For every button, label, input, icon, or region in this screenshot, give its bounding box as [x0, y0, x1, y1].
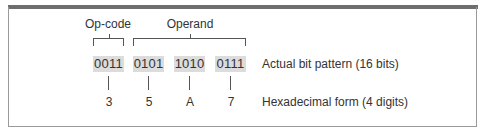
hex-form-label: Hexadecimal form (4 digits) — [262, 95, 408, 109]
hex-digit-3: A — [186, 95, 194, 109]
operand-bracket — [133, 38, 246, 46]
connector-4 — [230, 76, 231, 90]
opcode-bracket-tick — [109, 34, 110, 39]
hex-digit-2: 5 — [146, 95, 153, 109]
bit-group-1: 0011 — [93, 56, 124, 72]
connector-3 — [189, 76, 190, 90]
connector-2 — [148, 76, 149, 90]
bit-group-3: 1010 — [174, 56, 205, 72]
operand-label: Operand — [167, 17, 214, 31]
connector-1 — [108, 76, 109, 90]
bit-pattern-label: Actual bit pattern (16 bits) — [262, 57, 399, 71]
hex-digit-1: 3 — [106, 95, 113, 109]
bit-group-2: 0101 — [133, 56, 164, 72]
operand-bracket-tick — [190, 34, 191, 39]
hex-digit-4: 7 — [228, 95, 235, 109]
opcode-label: Op-code — [85, 17, 131, 31]
bit-group-4: 0111 — [215, 56, 246, 72]
opcode-bracket — [93, 38, 124, 46]
